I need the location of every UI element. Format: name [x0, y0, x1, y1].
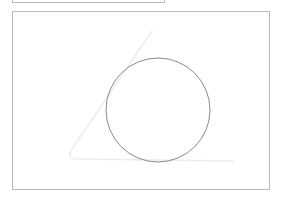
circle-shape[interactable] — [106, 58, 210, 162]
canvas-drawing-layer — [0, 0, 285, 204]
